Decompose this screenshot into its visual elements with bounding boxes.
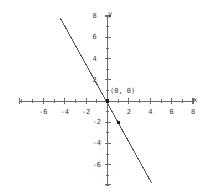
x-axis-tick-label: 8	[191, 109, 195, 116]
x-axis-tick-label: 6	[170, 109, 174, 116]
y-axis-label: y	[108, 11, 112, 18]
y-axis-tick-label: -6	[93, 161, 101, 168]
x-axis-label: x	[193, 97, 197, 104]
y-axis-tick-label: -4	[93, 140, 101, 147]
x-axis-tick-label: -6	[39, 109, 47, 116]
y-axis-tick-label: 6	[93, 34, 97, 41]
y-axis-tick-label: 8	[93, 13, 97, 20]
origin-point-label: (0, 0)	[110, 88, 135, 95]
y-axis-tick-label: -2	[93, 119, 101, 126]
plotted-point-marker	[117, 121, 120, 124]
x-axis-tick-label: -2	[82, 109, 90, 116]
x-axis-tick-label: 2	[127, 109, 131, 116]
graph-canvas	[0, 0, 205, 193]
x-axis-tick-label: -4	[60, 109, 68, 116]
y-axis-tick-label: 2	[93, 76, 97, 83]
coordinate-plane-graph: -6-4-224688642-2-4-6 y x (0, 0)	[0, 0, 205, 193]
plotted-point-marker	[106, 99, 109, 102]
y-axis-tick-label: 4	[93, 55, 97, 62]
x-axis-tick-label: 4	[148, 109, 152, 116]
